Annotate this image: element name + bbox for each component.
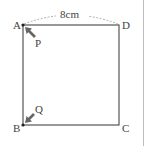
right-rule-divider <box>143 0 144 146</box>
vertex-dot-a <box>21 23 24 26</box>
vertex-dot-b <box>21 123 24 126</box>
mover-label-p: P <box>35 38 41 49</box>
vertex-label-a: A <box>13 20 21 31</box>
vertex-label-d: D <box>122 20 130 31</box>
vertex-label-c: C <box>122 123 129 134</box>
arrow-p-icon <box>25 27 35 37</box>
mover-label-q: Q <box>35 104 43 115</box>
arrow-q-icon <box>25 114 34 123</box>
vertex-label-b: B <box>13 123 20 134</box>
square-diagram: A D B C 8cm P Q <box>0 0 145 146</box>
dimension-label: 8cm <box>60 9 79 20</box>
